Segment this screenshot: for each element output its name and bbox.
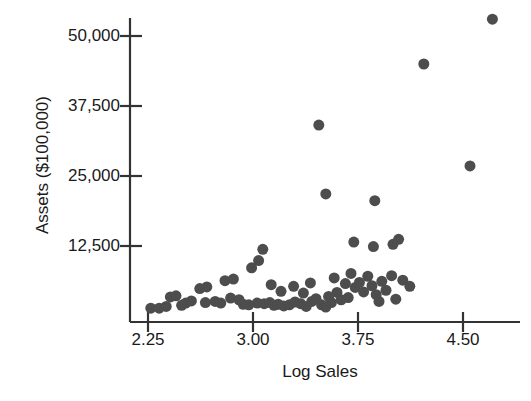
scatter-plot-figure: 50,000 37,500 25,000 12,500 2.25 3.00 3.… (0, 0, 531, 401)
y-axis-label: Assets ($100,000) (28, 10, 58, 320)
data-point (393, 234, 404, 245)
data-point (381, 285, 392, 296)
x-tick-label: 3.75 (323, 330, 393, 350)
data-point (323, 291, 334, 302)
x-tick-label: 2.25 (113, 330, 183, 350)
data-point (171, 290, 182, 301)
data-point (465, 160, 476, 171)
data-points-layer (145, 14, 498, 314)
data-point (346, 268, 357, 279)
data-point (257, 244, 268, 255)
data-point (320, 188, 331, 199)
data-point (369, 195, 380, 206)
x-tick-label: 4.50 (428, 330, 498, 350)
data-point (487, 14, 498, 25)
data-point (418, 59, 429, 70)
data-point (329, 272, 340, 283)
data-point (404, 281, 415, 292)
data-point (276, 286, 287, 297)
data-point (161, 301, 172, 312)
data-point (386, 270, 397, 281)
data-point (343, 292, 354, 303)
data-point (201, 281, 212, 292)
data-point (313, 120, 324, 131)
data-point (340, 278, 351, 289)
x-axis-label: Log Sales (130, 362, 510, 382)
data-point (228, 274, 239, 285)
data-point (348, 237, 359, 248)
data-point (305, 277, 316, 288)
data-point (374, 296, 385, 307)
data-point (253, 255, 264, 266)
data-point (362, 271, 373, 282)
data-point (298, 288, 309, 299)
data-point (215, 298, 226, 309)
data-point (176, 300, 187, 311)
data-point (288, 281, 299, 292)
x-tick-label: 3.00 (218, 330, 288, 350)
data-point (186, 295, 197, 306)
data-point (368, 241, 379, 252)
data-point (200, 297, 211, 308)
data-point (266, 279, 277, 290)
data-point (390, 294, 401, 305)
